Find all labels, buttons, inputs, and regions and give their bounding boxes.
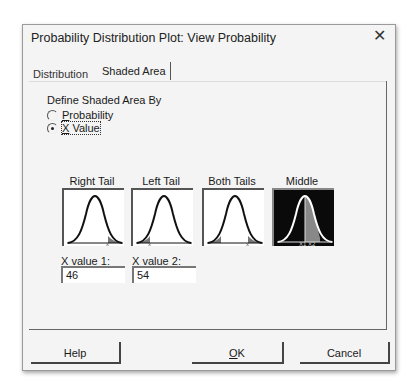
dialog-window: Probability Distribution Plot: View Prob…: [22, 24, 396, 371]
help-button[interactable]: Help: [31, 342, 121, 364]
panel-divider: [29, 81, 386, 82]
dialog-title: Probability Distribution Plot: View Prob…: [31, 31, 276, 45]
shaded-area-panel: Define Shaded Area By Probability X Valu…: [29, 81, 387, 330]
tab-shaded-area[interactable]: Shaded Area: [98, 62, 171, 80]
ok-button[interactable]: OK: [192, 342, 284, 364]
radio-probability[interactable]: Probability: [47, 109, 113, 121]
radio-x-value[interactable]: X Value: [47, 122, 100, 134]
left-tail-option[interactable]: x: [131, 188, 193, 246]
right-tail-label: Right Tail: [60, 175, 124, 187]
right-tail-curve-icon: x: [64, 190, 124, 246]
x-value-2-input[interactable]: 54: [132, 266, 196, 283]
svg-text:X1 X2: X1 X2: [299, 241, 316, 246]
left-tail-label: Left Tail: [129, 175, 193, 187]
middle-label: Middle: [270, 175, 334, 187]
radio-circle-icon: [47, 110, 58, 121]
x-value-1-input[interactable]: 46: [61, 266, 125, 283]
both-tails-label: Both Tails: [200, 175, 264, 187]
svg-text:x: x: [106, 241, 109, 246]
close-icon[interactable]: ✕: [371, 28, 387, 44]
both-tails-curve-icon: x: [204, 190, 264, 246]
both-tails-option[interactable]: x: [202, 188, 264, 246]
cancel-button[interactable]: Cancel: [300, 342, 390, 364]
svg-text:x: x: [246, 241, 249, 246]
right-tail-option[interactable]: x: [62, 188, 124, 246]
radio-selected-icon: [47, 123, 58, 134]
left-tail-curve-icon: x: [133, 190, 193, 246]
define-shaded-area-label: Define Shaded Area By: [47, 94, 161, 106]
svg-text:x: x: [148, 241, 151, 246]
middle-option[interactable]: X1 X2: [272, 188, 334, 246]
middle-curve-icon: X1 X2: [274, 190, 334, 246]
